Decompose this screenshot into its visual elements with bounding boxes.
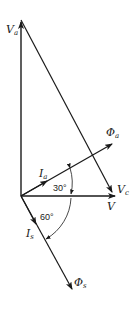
phi-s-label: Φs — [74, 276, 87, 290]
angle-30-label: 30° — [53, 183, 67, 193]
phasor-diagram: Va Φa Ia 30° Vc V 60° Is Φs — [0, 0, 135, 309]
vc-phasor-line — [21, 20, 112, 192]
va-label: Va — [6, 23, 18, 37]
is-label: Is — [25, 227, 34, 241]
is-phasor-line — [21, 196, 36, 224]
ia-label: Ia — [38, 167, 48, 181]
phi-a-label: Φa — [106, 126, 119, 140]
angle-arc-30 — [70, 168, 72, 194]
ia-phasor-line — [21, 181, 47, 196]
angle-60-label: 60° — [40, 212, 54, 222]
vc-label: Vc — [117, 183, 129, 197]
v-label: V — [107, 200, 116, 213]
